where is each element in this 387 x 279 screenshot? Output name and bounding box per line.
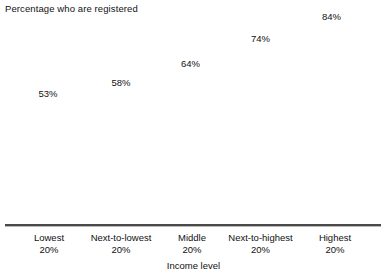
bar-value-label: 74%: [242, 33, 279, 44]
category-label-line1: Next-to-highest: [214, 232, 307, 244]
bar-value-label: 53%: [28, 88, 68, 99]
category-label-line1: Highest: [300, 232, 370, 244]
category-label-line1: Lowest: [14, 232, 84, 244]
category-label: Lowest 20%: [14, 232, 84, 255]
category-label-line2: 20%: [300, 244, 370, 256]
category-label: Next-to-highest 20%: [214, 232, 307, 255]
category-label-line1: Next-to-lowest: [77, 232, 165, 244]
category-label-line2: 20%: [214, 244, 307, 256]
category-label-line2: 20%: [14, 244, 84, 256]
category-label: Next-to-lowest 20%: [77, 232, 165, 255]
bar-chart: Percentage who are registered 53% 58%: [0, 0, 387, 279]
bar-value-label: 58%: [103, 77, 139, 88]
bar-value-label: 64%: [172, 58, 209, 69]
category-label: Highest 20%: [300, 232, 370, 255]
chart-title: Percentage who are registered: [5, 3, 138, 14]
axis-baseline-shadow: [5, 226, 381, 227]
x-axis-title: Income level: [0, 260, 387, 271]
category-label-line2: 20%: [77, 244, 165, 256]
bar-value-label: 84%: [313, 11, 350, 22]
